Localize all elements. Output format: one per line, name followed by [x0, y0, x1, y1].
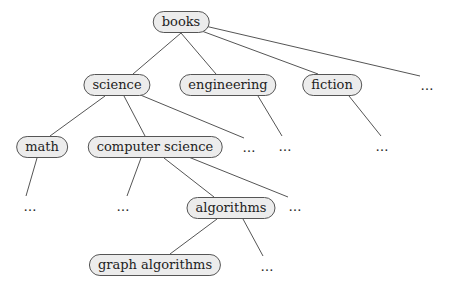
tree-edge [258, 96, 282, 136]
tree-edge [133, 33, 181, 74]
tree-edge [186, 156, 288, 197]
ellipsis-cs-more: … [289, 199, 304, 214]
tree-edge [205, 26, 420, 76]
node-science: science [83, 74, 150, 96]
tree-edge [138, 94, 244, 138]
node-math: math [16, 136, 68, 158]
ellipsis-fiction-child: … [376, 139, 391, 154]
node-computer-science: computer science [88, 136, 223, 158]
node-fiction: fiction [302, 74, 362, 96]
tree-edge [199, 30, 318, 74]
tree-edge [50, 96, 105, 136]
ellipsis-engineering-child: … [279, 139, 294, 154]
ellipsis-cs-child: … [117, 199, 132, 214]
ellipsis-math-child: … [24, 199, 39, 214]
tree-edge [349, 96, 381, 136]
tree-edge [170, 219, 217, 254]
node-books: books [153, 11, 210, 33]
node-algorithms: algorithms [186, 197, 275, 219]
node-engineering: engineering [179, 74, 276, 96]
tree-edge [124, 96, 145, 136]
tree-edge [26, 158, 37, 196]
tree-edge [181, 33, 216, 74]
ellipsis-books-more: … [421, 78, 436, 93]
tree-edge [127, 158, 141, 196]
ellipsis-science-more: … [243, 140, 258, 155]
node-graph-algorithms: graph algorithms [89, 254, 221, 276]
tree-edge [243, 219, 263, 256]
edge-layer [0, 0, 460, 288]
ellipsis-algorithms-more: … [261, 259, 276, 274]
